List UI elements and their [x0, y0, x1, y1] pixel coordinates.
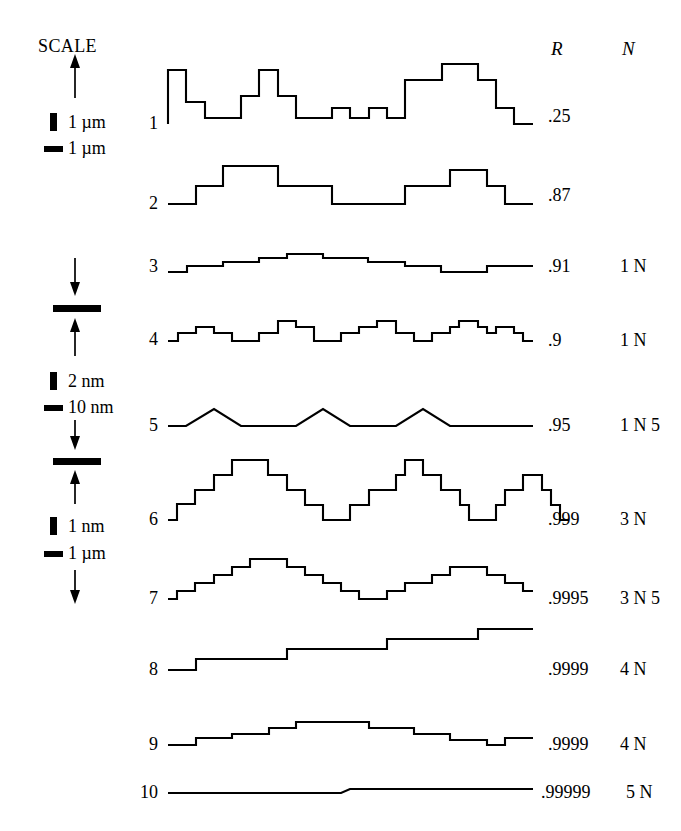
- n-value-7: 3 N 5: [620, 588, 660, 609]
- n-value-5: 1 N 5: [620, 415, 660, 436]
- n-value-6: 3 N: [620, 509, 647, 530]
- r-value-6: .999: [548, 509, 580, 530]
- n-value-8: 4 N: [620, 659, 647, 680]
- r-value-8: .9999: [548, 659, 589, 680]
- trace-waveform-2: [168, 166, 533, 204]
- trace-waveform-3: [168, 254, 533, 272]
- trace-waveform-1: [168, 64, 533, 124]
- roughness-profile-figure: SCALE 1 µm 1 µm 2 nm 10 nm: [0, 0, 681, 831]
- n-value-3: 1 N: [620, 256, 647, 277]
- trace-waveform-7: [168, 559, 533, 599]
- r-value-7: .9995: [548, 588, 589, 609]
- r-value-4: .9: [548, 330, 562, 351]
- n-value-9: 4 N: [620, 734, 647, 755]
- trace-waveform-5: [168, 409, 533, 426]
- r-value-10: .99999: [541, 782, 591, 803]
- r-value-5: .95: [548, 415, 571, 436]
- r-value-3: .91: [548, 256, 571, 277]
- trace-waveform-8: [168, 629, 533, 670]
- trace-waveform-9: [168, 722, 533, 745]
- n-value-10: 5 N: [626, 782, 653, 803]
- r-value-1: .25: [548, 106, 571, 127]
- trace-waveform-4: [168, 321, 533, 341]
- r-value-9: .9999: [548, 734, 589, 755]
- trace-waveform-group: [0, 0, 681, 831]
- trace-waveform-10: [168, 789, 533, 793]
- trace-waveform-6: [168, 460, 569, 520]
- r-value-2: .87: [548, 185, 571, 206]
- n-value-4: 1 N: [620, 330, 647, 351]
